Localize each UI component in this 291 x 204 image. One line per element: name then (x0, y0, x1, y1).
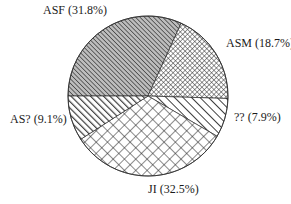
pie-chart (0, 0, 291, 204)
label-as-unknown: AS? (9.1%) (10, 113, 67, 126)
label-ji: JI (32.5%) (148, 183, 199, 196)
label-asf: ASF (31.8%) (43, 4, 107, 17)
label-unknown: ?? (7.9%) (234, 111, 281, 124)
label-asm: ASM (18.7%) (226, 37, 291, 50)
pie-slices (68, 16, 228, 176)
